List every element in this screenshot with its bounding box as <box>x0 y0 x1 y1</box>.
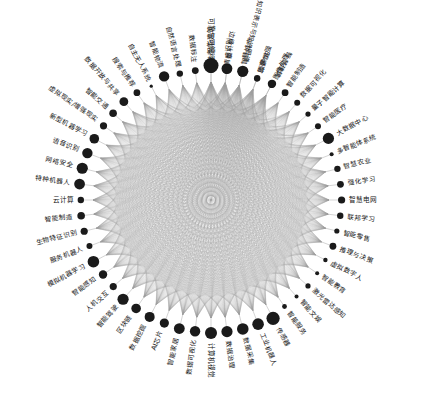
network-node[interactable] <box>89 134 99 144</box>
network-node[interactable] <box>192 67 199 74</box>
network-node[interactable] <box>330 243 337 250</box>
network-node[interactable] <box>268 80 276 88</box>
circular-network-figure: 智能建筑情感识别智慧城市图像增强图像处理智能制造数据可视化量子智能计算智能医疗大… <box>0 0 422 407</box>
network-node[interactable] <box>305 111 310 116</box>
network-node[interactable] <box>131 304 141 314</box>
network-node[interactable] <box>88 256 100 268</box>
network-node[interactable] <box>74 179 85 190</box>
network-node[interactable] <box>134 89 141 96</box>
network-node[interactable] <box>109 109 117 117</box>
network-node[interactable] <box>337 181 344 188</box>
network-node[interactable] <box>110 283 117 290</box>
network-node[interactable] <box>160 318 169 327</box>
network-node[interactable] <box>337 212 343 218</box>
network-node[interactable] <box>323 133 334 144</box>
network-node[interactable] <box>81 228 88 235</box>
network-node[interactable] <box>86 243 92 249</box>
network-canvas <box>0 0 422 407</box>
network-node[interactable] <box>315 271 319 275</box>
network-node[interactable] <box>119 97 128 106</box>
network-node[interactable] <box>77 212 85 220</box>
network-node[interactable] <box>237 323 249 335</box>
network-node[interactable] <box>338 196 345 203</box>
network-node[interactable] <box>330 152 334 156</box>
network-node[interactable] <box>82 148 92 158</box>
network-node[interactable] <box>323 258 327 262</box>
network-node[interactable] <box>282 89 289 96</box>
network-node[interactable] <box>100 122 107 129</box>
network-node[interactable] <box>159 71 169 81</box>
network-node[interactable] <box>315 123 321 129</box>
network-node[interactable] <box>78 197 84 203</box>
network-node[interactable] <box>174 323 185 334</box>
network-node[interactable] <box>334 166 340 172</box>
network-node[interactable] <box>266 312 279 325</box>
network-node[interactable] <box>99 270 107 278</box>
network-node[interactable] <box>237 66 248 77</box>
network-node[interactable] <box>295 295 299 299</box>
edge-bundle-layer <box>93 82 329 318</box>
network-node[interactable] <box>190 326 200 336</box>
network-node[interactable] <box>117 294 128 305</box>
network-node[interactable] <box>305 283 310 288</box>
network-node[interactable] <box>282 304 287 309</box>
network-node[interactable] <box>206 64 215 73</box>
network-node[interactable] <box>150 85 153 88</box>
network-node[interactable] <box>77 163 88 174</box>
network-node[interactable] <box>221 326 232 337</box>
network-node[interactable] <box>334 228 339 233</box>
network-node[interactable] <box>294 100 300 106</box>
network-node[interactable] <box>222 63 233 74</box>
network-node[interactable] <box>205 327 217 339</box>
network-node[interactable] <box>145 312 155 322</box>
network-node[interactable] <box>252 318 264 330</box>
network-node[interactable] <box>254 76 259 81</box>
network-node[interactable] <box>177 70 183 76</box>
